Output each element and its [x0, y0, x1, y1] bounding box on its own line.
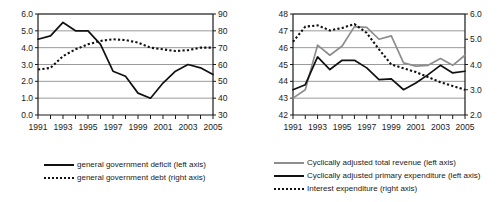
- series-line-1: [293, 57, 465, 90]
- xtick-label: 2001: [406, 122, 425, 132]
- xtick-label: 2005: [204, 122, 223, 132]
- legend-cyclically-adjusted: Cyclically adjusted total revenue (left …: [274, 156, 504, 202]
- ytick-label-left: 4.0: [21, 43, 33, 53]
- chart-svg-general-government: 0.01.02.03.04.05.06.03040506070809019911…: [0, 0, 252, 150]
- ytick-label-right: 30: [218, 110, 228, 120]
- ytick-label-left: 6.0: [21, 9, 33, 19]
- ytick-label-right: 6.0: [470, 9, 482, 19]
- legend-item: Interest expenditure (right axis): [274, 182, 504, 195]
- legend-swatch-solid-gray-icon: [274, 158, 304, 167]
- plot-area-general-government: 0.01.02.03.04.05.06.03040506070809019911…: [0, 0, 252, 150]
- ytick-label-left: 43: [279, 93, 289, 103]
- xtick-label: 2003: [179, 122, 198, 132]
- xtick-label: 1993: [308, 122, 327, 132]
- legend-swatch-dotted-black-icon: [44, 173, 74, 182]
- legend-swatch-solid-black-icon: [274, 171, 304, 180]
- legend-general-government: general government deficit (left axis)ge…: [44, 158, 254, 202]
- ytick-label-right: 40: [218, 93, 228, 103]
- xtick-label: 1991: [284, 122, 303, 132]
- ytick-label-left: 47: [279, 26, 289, 36]
- legend-item: Cyclically adjusted primary expenditure …: [274, 169, 504, 182]
- xtick-label: 2005: [456, 122, 475, 132]
- xtick-label: 2003: [431, 122, 450, 132]
- xtick-label: 1995: [79, 122, 98, 132]
- xtick-label: 1997: [357, 122, 376, 132]
- legend-swatch-solid-black-icon: [44, 160, 74, 169]
- ytick-label-right: 2.0: [470, 110, 482, 120]
- ytick-label-right: 4.0: [470, 60, 482, 70]
- ytick-label-right: 90: [218, 9, 228, 19]
- legend-label: Cyclically adjusted total revenue (left …: [307, 156, 456, 169]
- ytick-label-left: 0.0: [21, 110, 33, 120]
- xtick-label: 1993: [54, 122, 73, 132]
- ytick-label-left: 1.0: [21, 93, 33, 103]
- chart-panel-general-government: 0.01.02.03.04.05.06.03040506070809019911…: [0, 0, 252, 202]
- ytick-label-right: 80: [218, 26, 228, 36]
- xtick-label: 2001: [154, 122, 173, 132]
- ytick-label-left: 5.0: [21, 26, 33, 36]
- ytick-label-right: 60: [218, 60, 228, 70]
- ytick-label-right: 70: [218, 43, 228, 53]
- legend-label: Interest expenditure (right axis): [307, 182, 417, 195]
- xtick-label: 1999: [382, 122, 401, 132]
- legend-swatch-dotted-black-icon: [274, 184, 304, 193]
- ytick-label-left: 44: [279, 76, 289, 86]
- ytick-label-left: 2.0: [21, 76, 33, 86]
- chart-panel-cyclically-adjusted: 424344454647482.03.04.05.06.019911993199…: [252, 0, 504, 202]
- figure-two-panel-charts: 0.01.02.03.04.05.06.03040506070809019911…: [0, 0, 504, 202]
- legend-item: Cyclically adjusted total revenue (left …: [274, 156, 504, 169]
- series-line-0: [38, 22, 213, 98]
- ytick-label-left: 46: [279, 43, 289, 53]
- xtick-label: 1995: [333, 122, 352, 132]
- ytick-label-left: 42: [279, 110, 289, 120]
- legend-label: general government deficit (left axis): [77, 158, 206, 171]
- legend-label: Cyclically adjusted primary expenditure …: [307, 169, 480, 182]
- ytick-label-right: 3.0: [470, 85, 482, 95]
- ytick-label-left: 3.0: [21, 60, 33, 70]
- legend-label: general government debt (right axis): [77, 171, 206, 184]
- xtick-label: 1991: [29, 122, 48, 132]
- legend-item: general government deficit (left axis): [44, 158, 254, 171]
- ytick-label-right: 5.0: [470, 34, 482, 44]
- ytick-label-right: 50: [218, 76, 228, 86]
- legend-item: general government debt (right axis): [44, 171, 254, 184]
- xtick-label: 1999: [129, 122, 148, 132]
- plot-area-cyclically-adjusted: 424344454647482.03.04.05.06.019911993199…: [252, 0, 504, 150]
- ytick-label-left: 48: [279, 9, 289, 19]
- ytick-label-left: 45: [279, 60, 289, 70]
- series-line-0: [293, 27, 465, 99]
- xtick-label: 1997: [104, 122, 123, 132]
- chart-svg-cyclically-adjusted: 424344454647482.03.04.05.06.019911993199…: [252, 0, 504, 150]
